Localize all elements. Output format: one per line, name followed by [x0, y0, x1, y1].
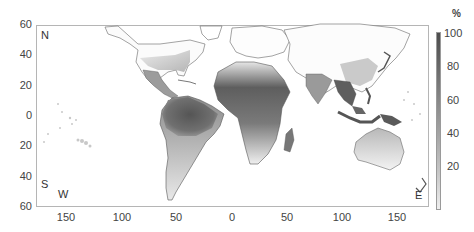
compass-east: E	[415, 189, 422, 201]
map-figure: 60 40 20 0 20 40 60 150 100 50 0 50 100 …	[0, 0, 474, 232]
colorbar-tick-80: 80	[447, 60, 459, 72]
europe	[230, 26, 290, 58]
madagascar	[284, 128, 294, 152]
y-tick-20n: 20	[10, 79, 32, 91]
y-tick-40n: 40	[10, 48, 32, 60]
colorbar	[436, 32, 441, 210]
y-tick-60s: 60	[10, 200, 32, 212]
x-tick-100w: 100	[107, 211, 137, 223]
x-tick-100e: 100	[327, 211, 357, 223]
new-guinea	[380, 114, 402, 126]
colorbar-tick-100: 100	[444, 27, 462, 39]
australia	[354, 128, 404, 170]
colorbar-tick-20: 20	[447, 160, 459, 172]
compass-south: S	[41, 178, 48, 190]
x-tick-50e: 50	[272, 211, 302, 223]
colorbar-tick-40: 40	[447, 127, 459, 139]
y-tick-40s: 40	[10, 170, 32, 182]
x-tick-50w: 50	[161, 211, 191, 223]
x-tick-150e: 150	[382, 211, 412, 223]
world-map	[0, 0, 474, 232]
x-tick-150w: 150	[51, 211, 81, 223]
y-tick-60n: 60	[10, 18, 32, 30]
compass-north: N	[41, 29, 49, 41]
x-tick-0: 0	[217, 211, 247, 223]
y-tick-20s: 20	[10, 139, 32, 151]
colorbar-unit-label: %	[452, 8, 461, 19]
y-tick-0: 0	[10, 109, 32, 121]
africa	[214, 62, 290, 164]
colorbar-tick-60: 60	[447, 94, 459, 106]
compass-west: W	[58, 188, 68, 200]
